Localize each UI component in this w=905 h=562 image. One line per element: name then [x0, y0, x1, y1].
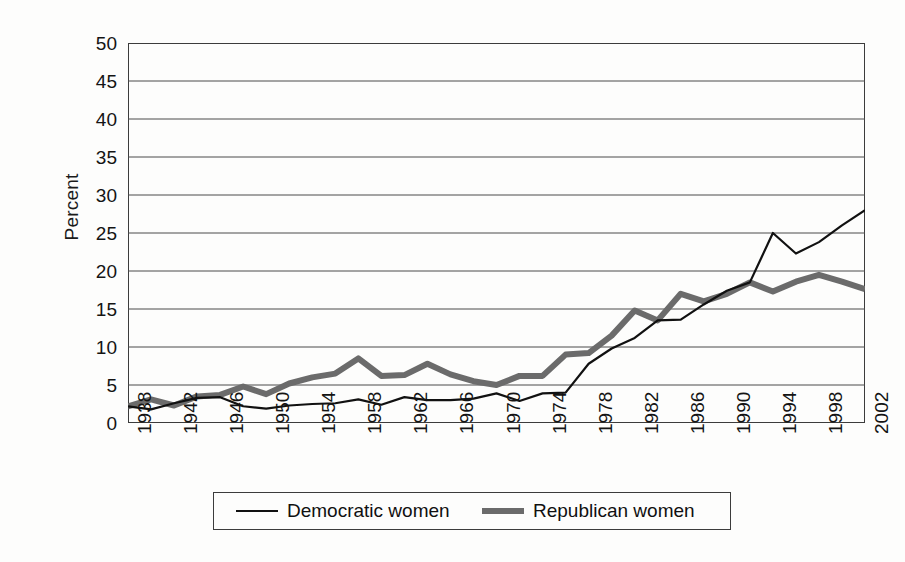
x-tick-label: 1950 — [273, 392, 292, 434]
x-tick-label: 1938 — [135, 392, 154, 434]
x-tick-label: 1946 — [227, 392, 246, 434]
y-tick-label: 15 — [71, 300, 117, 319]
y-tick-label: 35 — [71, 148, 117, 167]
x-tick-label: 1990 — [734, 392, 753, 434]
x-tick-label: 1958 — [365, 392, 384, 434]
y-tick-label: 25 — [71, 224, 117, 243]
legend-item-democratic-women: Democratic women — [236, 500, 450, 522]
y-tick-label: 10 — [71, 338, 117, 357]
x-tick-label: 1986 — [688, 392, 707, 434]
x-tick-label: 1942 — [181, 392, 200, 434]
x-tick-label: 1962 — [411, 392, 430, 434]
x-tick-label: 1978 — [596, 392, 615, 434]
thin-line-swatch-icon — [236, 510, 278, 512]
x-tick-label: 1970 — [504, 392, 523, 434]
x-tick-label: 1994 — [780, 392, 799, 434]
legend-label-democratic-women: Democratic women — [287, 500, 450, 522]
x-tick-label: 1954 — [319, 392, 338, 434]
x-tick-label: 1998 — [826, 392, 845, 434]
y-tick-label: 40 — [71, 110, 117, 129]
y-tick-label: 5 — [71, 376, 117, 395]
y-tick-label: 50 — [71, 34, 117, 53]
chart-canvas — [128, 43, 865, 423]
chart-legend: Democratic women Republican women — [213, 492, 731, 530]
y-tick-label: 45 — [71, 72, 117, 91]
chart-figure: Percent 05101520253035404550 19381942194… — [0, 0, 905, 562]
x-tick-label: 2002 — [872, 392, 891, 434]
x-tick-label: 1982 — [642, 392, 661, 434]
x-tick-label: 1974 — [550, 392, 569, 434]
thick-line-swatch-icon — [482, 508, 524, 514]
y-tick-label: 30 — [71, 186, 117, 205]
x-tick-label: 1966 — [457, 392, 476, 434]
plot-area — [128, 43, 865, 423]
legend-label-republican-women: Republican women — [533, 500, 695, 522]
legend-item-republican-women: Republican women — [482, 500, 695, 522]
y-tick-label: 20 — [71, 262, 117, 281]
y-tick-label: 0 — [71, 414, 117, 433]
